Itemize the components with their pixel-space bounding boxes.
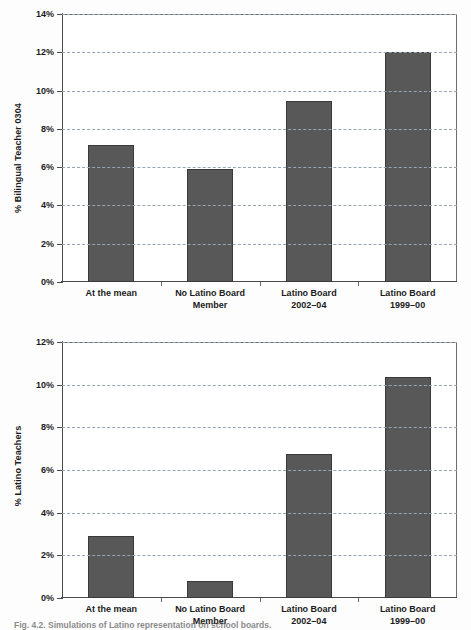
gridline — [62, 470, 457, 471]
plot-area-latino: 0%2%4%6%8%10%12% — [62, 342, 457, 598]
y-axis-tick-label: 14% — [36, 9, 54, 19]
y-axis-tick — [57, 244, 62, 245]
x-axis-tick — [260, 598, 261, 602]
x-axis-category-label: Latino Board2002–04 — [260, 288, 359, 311]
y-axis-tick — [57, 342, 62, 343]
x-label-line2: 1999–00 — [358, 300, 457, 312]
y-axis-tick — [57, 205, 62, 206]
x-axis-tick — [161, 282, 162, 286]
gridline — [62, 205, 457, 206]
y-axis-tick-label: 6% — [41, 465, 54, 475]
gridline — [62, 342, 457, 343]
chart-latino-teachers: % Latino Teachers 0%2%4%6%8%10%12% At th… — [0, 316, 471, 616]
x-label-line1: No Latino Board — [175, 288, 245, 298]
y-axis-tick-label: 6% — [41, 162, 54, 172]
gridline — [62, 244, 457, 245]
bar-latino-3[interactable] — [385, 377, 431, 598]
gridline — [62, 52, 457, 53]
y-axis-tick — [57, 282, 62, 283]
bar-latino-2[interactable] — [286, 454, 332, 598]
x-label-line1: At the mean — [86, 288, 138, 298]
x-axis-tick — [260, 282, 261, 286]
y-axis-tick-label: 0% — [41, 277, 54, 287]
y-axis-title-text: % Bilingual Teacher 0304 — [13, 103, 23, 213]
bar-slot — [161, 14, 260, 282]
y-axis-tick-label: 10% — [36, 380, 54, 390]
y-axis-tick — [57, 555, 62, 556]
plot-area-bilingual: 0%2%4%6%8%10%12%14% — [62, 14, 457, 282]
gridline — [62, 385, 457, 386]
x-label-line2: 2002–04 — [260, 300, 359, 312]
y-axis-title-latino: % Latino Teachers — [8, 316, 28, 616]
x-axis-category-label: At the mean — [62, 288, 161, 311]
y-axis-tick-label: 8% — [41, 422, 54, 432]
x-axis-category-label: Latino Board1999–00 — [358, 288, 457, 311]
x-axis-labels-bilingual: At the meanNo Latino BoardMemberLatino B… — [62, 288, 457, 311]
y-axis-tick-label: 10% — [36, 86, 54, 96]
gridline — [62, 513, 457, 514]
x-axis-tick — [358, 598, 359, 602]
y-axis-tick-label: 2% — [41, 550, 54, 560]
gridline — [62, 555, 457, 556]
figure-caption: Fig. 4.2. Simulations of Latino represen… — [14, 620, 464, 630]
chart-bilingual-teacher: % Bilingual Teacher 0304 0%2%4%6%8%10%12… — [0, 0, 471, 316]
y-axis-title-text: % Latino Teachers — [13, 426, 23, 507]
bar-bilingual-1[interactable] — [187, 169, 233, 282]
y-axis-tick-label: 2% — [41, 239, 54, 249]
x-label-line1: Latino Board — [380, 288, 436, 298]
bar-slot — [260, 14, 359, 282]
y-axis-tick — [57, 427, 62, 428]
y-axis-title-bilingual: % Bilingual Teacher 0304 — [8, 0, 28, 316]
gridline — [62, 167, 457, 168]
y-axis-tick-label: 8% — [41, 124, 54, 134]
x-label-line1: At the mean — [86, 604, 138, 614]
y-axis-tick — [57, 167, 62, 168]
bar-slot — [62, 14, 161, 282]
y-axis-tick-label: 4% — [41, 200, 54, 210]
y-axis-tick-label: 0% — [41, 593, 54, 603]
y-axis-tick-label: 12% — [36, 47, 54, 57]
bar-latino-0[interactable] — [88, 536, 134, 598]
bar-latino-1[interactable] — [187, 581, 233, 598]
y-axis-tick — [57, 14, 62, 15]
gridline — [62, 14, 457, 15]
y-axis-tick — [57, 470, 62, 471]
x-axis-tick — [161, 598, 162, 602]
y-axis-tick — [57, 91, 62, 92]
bar-group-bilingual — [62, 14, 457, 282]
y-axis-tick — [57, 513, 62, 514]
x-label-line1: Latino Board — [380, 604, 436, 614]
y-axis-tick — [57, 52, 62, 53]
x-label-line1: Latino Board — [281, 604, 337, 614]
y-axis-tick — [57, 598, 62, 599]
x-label-line1: No Latino Board — [175, 604, 245, 614]
y-axis-tick — [57, 129, 62, 130]
y-axis-tick-label: 12% — [36, 337, 54, 347]
bar-bilingual-0[interactable] — [88, 145, 134, 282]
x-label-line1: Latino Board — [281, 288, 337, 298]
x-axis-tick — [358, 282, 359, 286]
gridline — [62, 129, 457, 130]
x-label-line2: Member — [161, 300, 260, 312]
bar-slot — [358, 14, 457, 282]
y-axis-tick-label: 4% — [41, 508, 54, 518]
y-axis-tick — [57, 385, 62, 386]
x-axis-category-label: No Latino BoardMember — [161, 288, 260, 311]
gridline — [62, 91, 457, 92]
gridline — [62, 427, 457, 428]
